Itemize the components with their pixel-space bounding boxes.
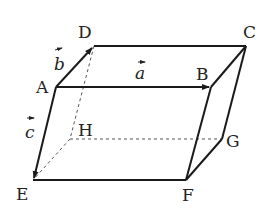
parallelepiped-diagram: A B C D E F G H a b c: [0, 0, 280, 215]
vertex-label-B: B: [196, 64, 209, 84]
vector-label-b: b: [54, 54, 65, 74]
vertex-label-E: E: [16, 184, 28, 204]
vertex-label-D: D: [78, 22, 92, 42]
vertex-label-H: H: [78, 120, 93, 140]
vertex-label-A: A: [35, 77, 49, 97]
diagram-svg: A B C D E F G H a b c: [0, 0, 280, 215]
vertex-label-G: G: [226, 131, 240, 151]
vertex-label-C: C: [243, 22, 256, 42]
vector-label-a: a: [135, 63, 145, 83]
vector-label-c-group: c: [25, 118, 35, 142]
vector-label-b-group: b: [54, 48, 65, 74]
vector-label-c: c: [25, 122, 35, 142]
vertex-label-F: F: [182, 185, 194, 205]
vector-b-overarrow-icon: [55, 48, 62, 50]
vector-label-a-group: a: [135, 62, 145, 83]
vector-c-arrow: [34, 87, 56, 178]
